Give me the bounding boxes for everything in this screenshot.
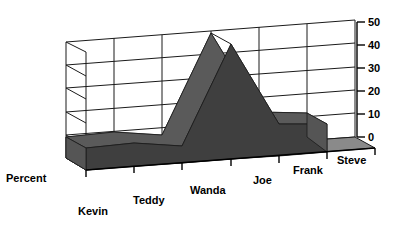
chart-3d-area: 50 40 30 20 10 0 Kevin Teddy Wanda Joe F… xyxy=(0,0,399,228)
y-tick-label-40: 40 xyxy=(368,39,380,51)
series-depth-label: Percent xyxy=(6,172,47,184)
category-label-steve: Steve xyxy=(337,154,366,166)
y-tick-label-10: 10 xyxy=(368,108,380,120)
y-axis xyxy=(357,22,365,137)
chart-container: 50 40 30 20 10 0 Kevin Teddy Wanda Joe F… xyxy=(0,0,399,228)
y-tick-label-30: 30 xyxy=(368,62,380,74)
y-tick-label-0: 0 xyxy=(368,131,374,143)
category-label-frank: Frank xyxy=(293,164,324,176)
category-label-wanda: Wanda xyxy=(190,184,227,196)
y-tick-label-50: 50 xyxy=(368,16,380,28)
category-label-kevin: Kevin xyxy=(78,205,108,217)
category-label-joe: Joe xyxy=(253,174,272,186)
y-tick-label-20: 20 xyxy=(368,85,380,97)
y-axis-tick-labels: 50 40 30 20 10 0 xyxy=(368,16,380,143)
category-label-teddy: Teddy xyxy=(133,194,165,206)
percent-label: Percent xyxy=(6,172,47,184)
